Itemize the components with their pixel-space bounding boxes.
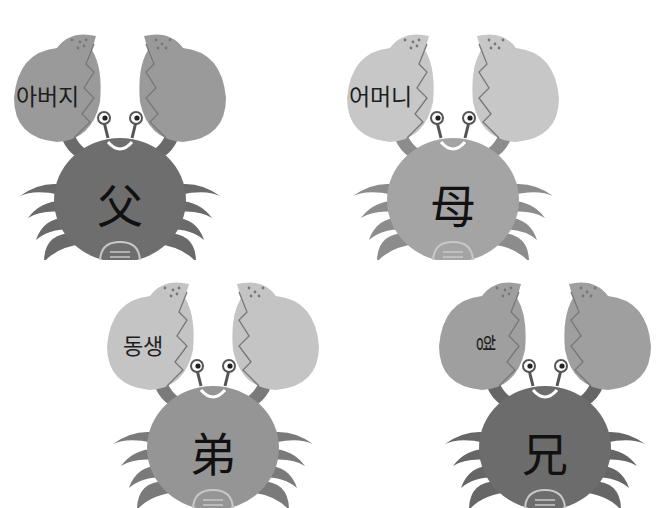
crab-father: 아버지父 (0, 10, 240, 260)
body-hanja-character: 父 (80, 170, 160, 236)
right-claw (472, 35, 559, 143)
crab-mother: 어머니母 (333, 10, 573, 260)
body-hanja-character: 兄 (505, 418, 585, 484)
claw-korean-label: 동생 (123, 328, 163, 360)
crab-younger-sibling: 동생弟 (93, 258, 333, 508)
claw-korean-label: 어머니 (349, 78, 412, 112)
claw-korean-label: 형 (472, 334, 501, 352)
right-claw (232, 283, 319, 391)
right-claw (564, 283, 651, 391)
body-hanja-character: 弟 (173, 418, 253, 484)
claw-korean-label: 아버지 (16, 78, 79, 112)
body-hanja-character: 母 (413, 170, 493, 236)
right-claw (139, 35, 226, 143)
crab-older-brother: 형兄 (425, 258, 662, 508)
